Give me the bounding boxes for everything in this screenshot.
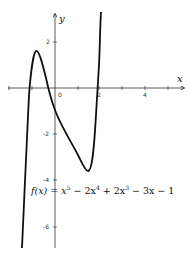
y-tick-neg6: -6 — [43, 223, 49, 230]
x-tick-4: 4 — [143, 91, 147, 98]
y-axis-label: y — [58, 13, 65, 24]
function-curve — [22, 12, 101, 248]
y-tick-2: 2 — [46, 38, 50, 45]
x-tick-0: 0 — [58, 91, 62, 98]
function-plot: 0 2 4 2 -2 -4 -6 x y — [0, 0, 190, 265]
x-axis-label: x — [177, 73, 183, 84]
y-tick-neg2: -2 — [43, 130, 49, 137]
function-label: f(x) = x5 − 2x4 + 2x3 − 3x − 1 — [31, 184, 174, 196]
y-tick-neg4: -4 — [43, 176, 49, 183]
